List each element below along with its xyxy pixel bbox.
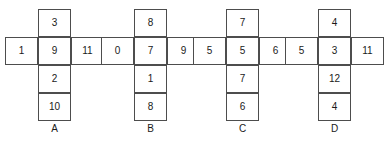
net-d-cell-right: 11 (351, 37, 384, 65)
net-d-label: D (318, 124, 351, 134)
net-a-cell-center: 9 (38, 37, 71, 65)
net-a-cell-bottom: 10 (38, 93, 71, 121)
net-c-cell-left: 5 (193, 37, 226, 65)
net-d-cell-center: 3 (318, 37, 351, 65)
net-b-cell-bottom: 8 (134, 93, 167, 121)
cube-net-d: 4 5 3 11 12 4 D (288, 0, 380, 143)
net-b-label: B (134, 124, 167, 134)
net-c-cell-center: 5 (226, 37, 259, 65)
net-b-cell-top: 8 (134, 9, 167, 37)
net-d-cell-top: 4 (318, 9, 351, 37)
net-d-cell-bottom: 4 (318, 93, 351, 121)
cube-net-a: 3 1 9 11 2 10 A (8, 0, 100, 143)
net-b-cell-center: 7 (134, 37, 167, 65)
net-c-cell-bottom: 6 (226, 93, 259, 121)
cube-net-b: 8 0 7 9 1 8 B (104, 0, 196, 143)
net-a-cell-right: 11 (71, 37, 104, 65)
net-a-cell-lower: 2 (38, 65, 71, 93)
net-a-cell-left: 1 (5, 37, 38, 65)
net-d-cell-lower: 12 (318, 65, 351, 93)
net-c-cell-lower: 7 (226, 65, 259, 93)
net-c-cell-top: 7 (226, 9, 259, 37)
net-b-cell-lower: 1 (134, 65, 167, 93)
net-a-label: A (38, 124, 71, 134)
net-d-cell-left: 5 (285, 37, 318, 65)
cube-net-c: 7 5 5 6 7 6 C (196, 0, 288, 143)
net-a-cell-top: 3 (38, 9, 71, 37)
net-b-cell-left: 0 (101, 37, 134, 65)
net-c-label: C (226, 124, 259, 134)
